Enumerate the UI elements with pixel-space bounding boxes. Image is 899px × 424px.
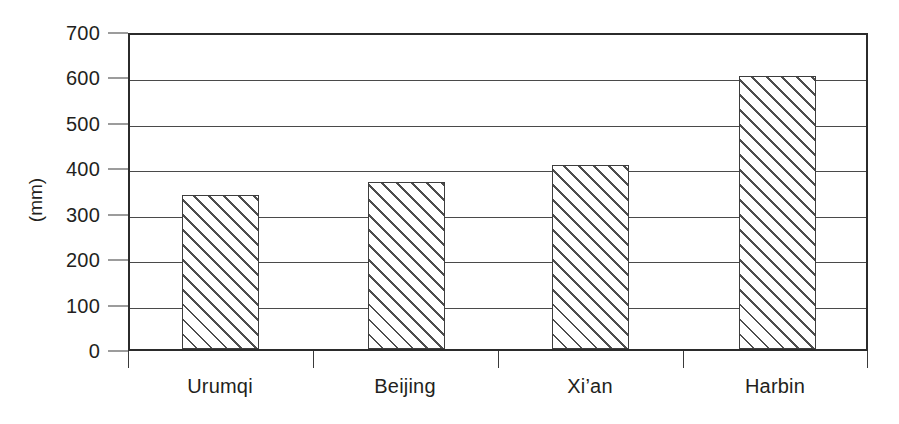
bar-urumqi [182, 195, 259, 350]
y-tick-label: 200 [66, 249, 100, 272]
y-axis-title: (mm) [25, 178, 47, 222]
bar-xian [552, 165, 629, 349]
y-tick-mark [108, 305, 128, 306]
x-tick-mark [313, 351, 314, 368]
y-tick-mark [108, 351, 128, 352]
x-category-label-harbin: Harbin [745, 375, 805, 398]
bar-harbin [739, 76, 816, 349]
y-tick-mark [108, 123, 128, 124]
y-tick-label: 300 [66, 203, 100, 226]
y-tick-mark [108, 78, 128, 79]
bar-beijing [368, 182, 445, 349]
y-tick-mark [108, 260, 128, 261]
x-category-label-urumqi: Urumqi [187, 375, 253, 398]
y-tick-label: 0 [89, 340, 100, 363]
y-tick-mark [108, 33, 128, 34]
bar-chart-figure: 700 600 500 400 300 200 100 0 (mm) [0, 0, 899, 424]
y-tick-mark [108, 214, 128, 215]
x-axis: Urumqi Beijing Xi’an Harbin [128, 351, 868, 424]
y-tick-label: 500 [66, 112, 100, 135]
x-tick-mark [498, 351, 499, 368]
x-category-label-xian: Xi’an [567, 375, 612, 398]
y-tick-mark [108, 169, 128, 170]
y-axis: 700 600 500 400 300 200 100 0 (mm) [0, 0, 128, 424]
y-tick-label: 400 [66, 158, 100, 181]
x-tick-mark [128, 351, 129, 368]
y-tick-label: 100 [66, 294, 100, 317]
x-category-label-beijing: Beijing [374, 375, 435, 398]
plot-area [128, 33, 868, 351]
y-tick-label: 600 [66, 67, 100, 90]
x-tick-mark [867, 351, 868, 368]
x-tick-mark [683, 351, 684, 368]
y-tick-label: 700 [66, 22, 100, 45]
